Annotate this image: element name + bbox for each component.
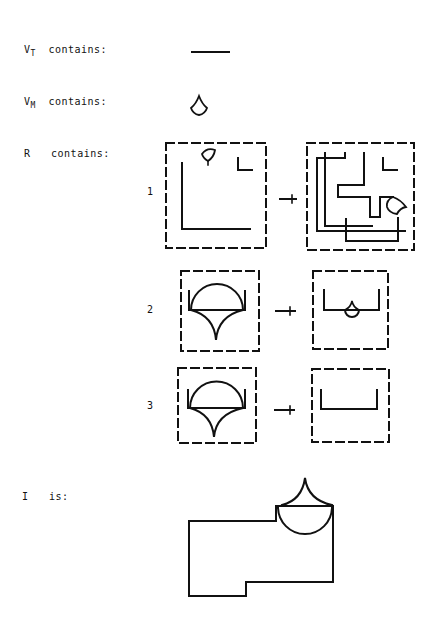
rule3-lhs-box: [178, 368, 256, 443]
diagram-canvas: [0, 0, 435, 623]
rule1-arrow-icon: [280, 195, 296, 203]
rule1-rhs-tile-icon: [387, 197, 406, 214]
rule2-rhs-box: [313, 271, 388, 349]
vm-tile-icon: [191, 96, 207, 115]
rule1-lhs-box: [166, 143, 266, 248]
rule3-arrow-icon: [275, 406, 294, 414]
rule3-rhs-box: [312, 369, 389, 442]
initial-shape: [189, 478, 333, 596]
rule1-rhs-box: [307, 143, 414, 250]
rule1-tile-icon: [202, 149, 215, 161]
rule2-arrow-icon: [276, 307, 295, 315]
rule2-lhs-box: [181, 271, 259, 351]
